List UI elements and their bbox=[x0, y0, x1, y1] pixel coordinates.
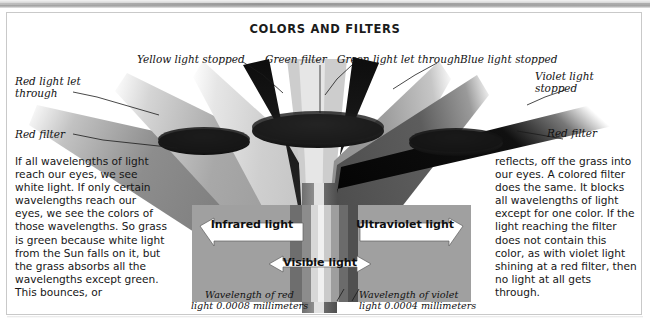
caption-wavelength-violet: Wavelength of violet light 0.0004 millim… bbox=[359, 289, 504, 311]
caption-wavelength-red: Wavelength of red light 0.0008 millimete… bbox=[177, 289, 322, 311]
arrow-label-ultraviolet: Ultraviolet light bbox=[359, 216, 451, 233]
figure-root: COLORS AND FILTERS bbox=[0, 0, 650, 331]
callout-violet-light-stopped: Violet light stopped bbox=[535, 70, 615, 94]
filter-disk-center-rim bbox=[252, 111, 384, 143]
body-text-right: reflects, off the grass into our eyes. A… bbox=[495, 155, 639, 299]
callout-blue-light-stopped: Blue light stopped bbox=[460, 53, 557, 65]
callout-red-filter-right: Red filter bbox=[547, 127, 597, 139]
callout-yellow-light-stopped: Yellow light stopped bbox=[137, 53, 245, 65]
callout-green-filter: Green filter bbox=[265, 53, 327, 65]
callout-red-light-let-through: Red light let through bbox=[15, 75, 105, 99]
callout-red-filter-left: Red filter bbox=[15, 128, 65, 140]
arrow-label-visible: Visible light bbox=[278, 254, 362, 271]
figure-panel: COLORS AND FILTERS bbox=[6, 12, 642, 315]
top-strip-highlight bbox=[0, 3, 650, 5]
filter-disk-right-rim bbox=[409, 128, 503, 152]
body-text-left: If all wavelengths of light reach our ey… bbox=[15, 155, 167, 299]
callout-green-light-let-through: Green light let through bbox=[337, 53, 460, 65]
panel-bottom-shadow bbox=[7, 316, 643, 318]
arrow-label-infrared: Infrared light bbox=[204, 216, 300, 233]
top-gray-strip bbox=[0, 0, 650, 8]
